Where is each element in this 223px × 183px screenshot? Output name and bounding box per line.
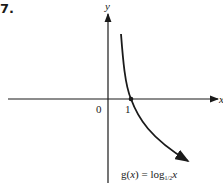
y-axis-label: y xyxy=(104,0,110,12)
problem-number: 7. xyxy=(0,1,14,16)
graph: 7. x y 0 1 g(x) = log1/2x xyxy=(0,0,223,183)
point-1-0 xyxy=(129,97,134,102)
origin-label: 0 xyxy=(96,103,102,115)
function-label: g(x) = log1/2x xyxy=(121,168,177,181)
x-axis-label: x xyxy=(218,93,223,105)
tick-label-1: 1 xyxy=(125,103,131,115)
